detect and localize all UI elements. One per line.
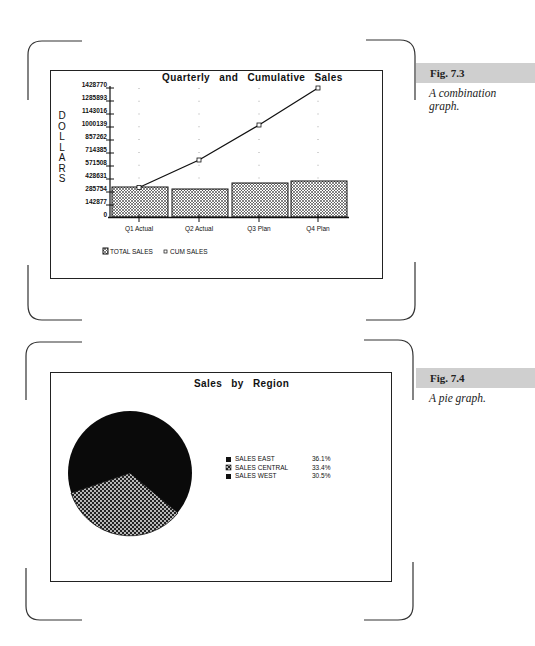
legend-item: SALES CENTRAL 33.4%: [235, 464, 288, 471]
pie-chart: [0, 0, 535, 646]
legend-item: SALES EAST 36.1%: [235, 455, 275, 462]
legend-item: SALES WEST 30.5%: [235, 472, 277, 479]
figure-label: Fig. 7.4: [416, 368, 535, 388]
figure-caption-7-4: Fig. 7.4 A pie graph.: [416, 368, 535, 405]
caption-text: A pie graph.: [429, 392, 535, 405]
